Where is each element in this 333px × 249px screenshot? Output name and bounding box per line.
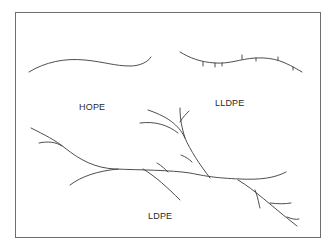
- ldpe-label: LDPE: [148, 211, 172, 221]
- hdpe-label: HOPE: [79, 102, 105, 112]
- hdpe-chain: [29, 57, 151, 72]
- lldpe-chain: [180, 52, 302, 72]
- lldpe-label: LLDPE: [215, 98, 245, 108]
- ldpe-chain: [31, 108, 299, 226]
